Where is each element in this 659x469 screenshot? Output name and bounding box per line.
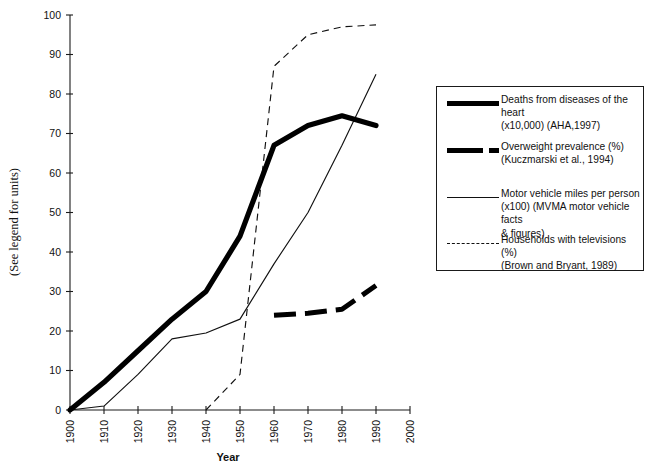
x-tick-labels: 1900191019201930194019501960197019801990… <box>64 420 416 444</box>
y-tick-label: 30 <box>49 285 61 297</box>
x-tick-label: 1990 <box>370 420 382 444</box>
y-tick-label: 0 <box>55 404 61 416</box>
x-tick-label: 1950 <box>234 420 246 444</box>
y-tick-labels: 0102030405060708090100 <box>43 9 61 416</box>
y-axis-title: (See legend for units) <box>7 168 21 276</box>
x-tick-label: 1920 <box>132 420 144 444</box>
x-tick-label: 1960 <box>268 420 280 444</box>
series-motor-vehicle-miles <box>70 74 376 410</box>
x-tick-label: 1910 <box>98 420 110 444</box>
legend-key-dashed-thick-icon <box>447 143 501 157</box>
series-overweight-prevalence <box>274 286 376 316</box>
legend-label-motor-vehicle-miles: Motor vehicle miles per person (x100) (M… <box>501 187 645 240</box>
data-series-group <box>70 25 376 410</box>
y-tick-label: 100 <box>43 9 61 21</box>
y-tick-label: 20 <box>49 325 61 337</box>
y-tick-label: 80 <box>49 88 61 100</box>
y-tick-label: 70 <box>49 127 61 139</box>
y-tick-label: 10 <box>49 364 61 376</box>
legend: Deaths from diseases of the heart (x10,0… <box>436 86 644 271</box>
legend-key-dashed-thin-icon <box>447 236 501 250</box>
x-tick-label: 1900 <box>64 420 76 444</box>
legend-label-overweight-prevalence: Overweight prevalence (%) (Kuczmarski et… <box>501 140 628 166</box>
x-axis-title: Year <box>216 451 240 463</box>
x-tick-label: 2000 <box>404 420 416 444</box>
legend-entry-households-televisions: Households with televisions (%) (Brown a… <box>437 233 645 273</box>
y-tick-label: 60 <box>49 167 61 179</box>
series-households-with-televisions <box>206 25 376 410</box>
legend-entry-motor-vehicle-miles: Motor vehicle miles per person (x100) (M… <box>437 187 645 240</box>
y-tick-label: 50 <box>49 206 61 218</box>
legend-label-households-televisions: Households with televisions (%) (Brown a… <box>501 233 645 273</box>
series-deaths-heart-disease <box>70 116 376 410</box>
x-tick-label: 1930 <box>166 420 178 444</box>
x-tick-label: 1970 <box>302 420 314 444</box>
figure-container: 0102030405060708090100 19001910192019301… <box>0 0 659 469</box>
x-tick-label: 1980 <box>336 420 348 444</box>
y-tick-label: 90 <box>49 48 61 60</box>
legend-entry-deaths-heart-disease: Deaths from diseases of the heart (x10,0… <box>437 93 645 133</box>
legend-key-solid-thick-icon <box>447 96 501 110</box>
legend-label-deaths-heart-disease: Deaths from diseases of the heart (x10,0… <box>501 93 645 133</box>
legend-entry-overweight-prevalence: Overweight prevalence (%) (Kuczmarski et… <box>437 140 645 166</box>
y-tick-label: 40 <box>49 246 61 258</box>
legend-key-solid-thin-icon <box>447 190 501 204</box>
axes <box>66 15 410 414</box>
x-tick-label: 1940 <box>200 420 212 444</box>
